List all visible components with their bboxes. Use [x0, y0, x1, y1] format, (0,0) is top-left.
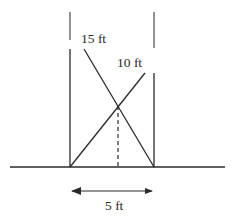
label-10ft: 10 ft	[117, 55, 142, 70]
ladder-10ft	[70, 73, 145, 167]
ladder-diagram: 15 ft 10 ft 5 ft	[0, 0, 247, 222]
label-15ft: 15 ft	[81, 31, 106, 46]
label-5ft: 5 ft	[105, 198, 124, 213]
